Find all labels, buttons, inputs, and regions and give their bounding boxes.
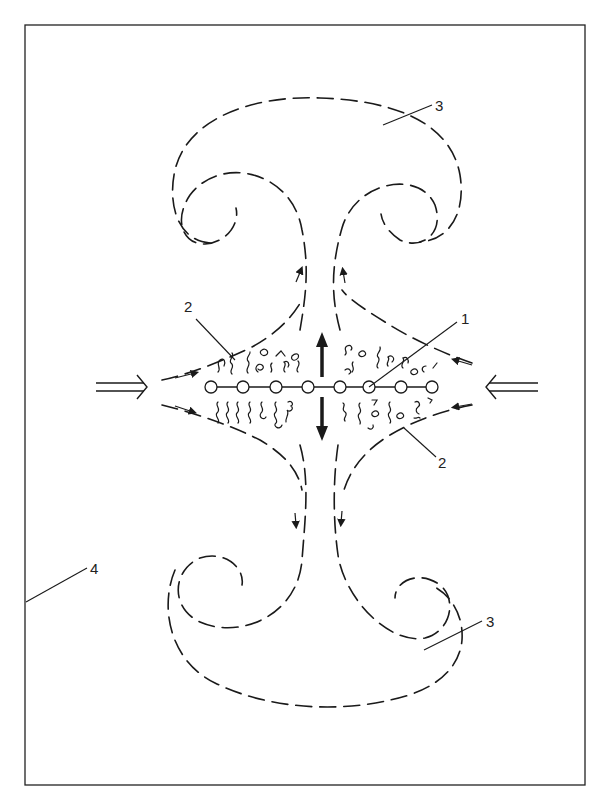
- label-3-top: 3: [435, 97, 443, 114]
- turbulence-zone-upper: [218, 345, 437, 374]
- node-chain: [205, 381, 438, 393]
- label-1: 1: [461, 310, 469, 327]
- turbulence-zone-lower: [216, 398, 432, 429]
- label-2-top: 2: [184, 298, 192, 315]
- node-7: [395, 381, 407, 393]
- leader-2b: [404, 428, 436, 457]
- node-4: [302, 381, 314, 393]
- leader-2a: [196, 319, 235, 360]
- label-3-bottom: 3: [486, 613, 494, 630]
- frame-border: [25, 25, 585, 785]
- double-arrow-right-icon: [96, 375, 147, 399]
- node-1: [205, 381, 217, 393]
- bottom-vortex: [168, 445, 462, 707]
- node-8: [426, 381, 438, 393]
- node-5: [334, 381, 346, 393]
- leader-4: [26, 568, 87, 602]
- double-arrow-left-icon: [486, 375, 538, 399]
- label-4: 4: [90, 560, 98, 577]
- vortex-flow-diagram: 1 2 2 3 3 4: [0, 0, 600, 808]
- node-2: [237, 381, 249, 393]
- node-3: [270, 381, 282, 393]
- top-vortex: [173, 98, 462, 330]
- leader-1: [369, 322, 457, 387]
- arrow-up-icon: [316, 332, 328, 377]
- label-2-bottom: 2: [438, 454, 446, 471]
- arrow-down-icon: [316, 397, 328, 441]
